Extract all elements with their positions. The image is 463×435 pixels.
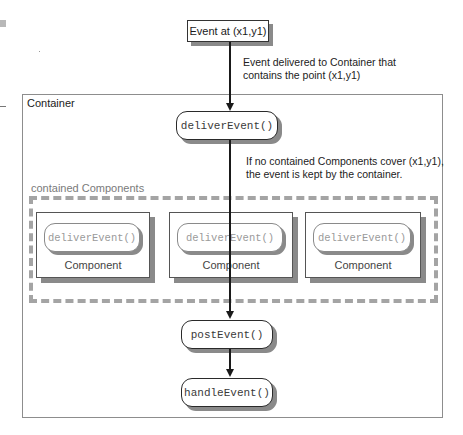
margin-mark bbox=[0, 20, 6, 27]
flow-line-event-to-container bbox=[229, 42, 231, 104]
handle-event-label: handleEvent() bbox=[184, 387, 270, 399]
event-box: Event at (x1,y1) bbox=[187, 20, 269, 42]
delivered-note-line-1: Event delivered to Container that bbox=[243, 56, 396, 69]
kept-note-line-1: If no contained Components cover (x1,y1)… bbox=[246, 155, 444, 168]
component-box: deliverEvent() Component bbox=[169, 212, 293, 278]
component-method-label: deliverEvent() bbox=[48, 232, 136, 244]
margin-dot bbox=[39, 51, 40, 52]
component-box: deliverEvent() Component bbox=[36, 212, 150, 278]
kept-note-line-2: the event is kept by the container. bbox=[246, 168, 444, 181]
post-event-label: postEvent() bbox=[191, 329, 264, 341]
handle-event-node: handleEvent() bbox=[181, 378, 273, 407]
arrow-down-icon bbox=[226, 369, 234, 377]
component-label: Component bbox=[306, 259, 420, 271]
margin-line bbox=[0, 106, 6, 107]
arrow-down-icon bbox=[226, 311, 234, 319]
kept-note: If no contained Components cover (x1,y1)… bbox=[246, 155, 444, 181]
container-label: Container bbox=[27, 97, 75, 109]
component-deliver-event-node: deliverEvent() bbox=[313, 223, 411, 252]
container-deliver-event-node: deliverEvent() bbox=[176, 111, 278, 140]
component-method-label: deliverEvent() bbox=[318, 232, 406, 244]
event-label: Event at (x1,y1) bbox=[189, 25, 266, 37]
contained-components-label: contained Components bbox=[31, 182, 144, 194]
component-box: deliverEvent() Component bbox=[305, 212, 421, 278]
deliver-event-label: deliverEvent() bbox=[181, 120, 273, 132]
arrow-down-icon bbox=[226, 103, 234, 111]
delivered-note-line-2: contains the point (x1,y1) bbox=[243, 69, 396, 82]
component-label: Component bbox=[37, 259, 149, 271]
delivered-note: Event delivered to Container that contai… bbox=[243, 56, 396, 82]
component-deliver-event-node: deliverEvent() bbox=[44, 223, 140, 252]
flow-line-post-to-handle bbox=[229, 349, 231, 370]
flow-line-deliver-to-post bbox=[229, 140, 231, 312]
component-label: Component bbox=[170, 259, 292, 271]
post-event-node: postEvent() bbox=[181, 320, 273, 349]
